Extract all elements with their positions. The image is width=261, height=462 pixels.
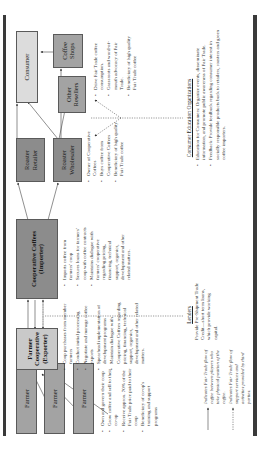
- importer-bullet: Maintains dialogue with farmers' coopera…: [89, 224, 132, 286]
- farmer-bullet: Receive approx. 70% of the Fair Trade pr…: [121, 368, 140, 432]
- importer-bullet: Imports coffee from farmers' coop: [62, 224, 74, 286]
- consumer-bullet: Drive Fair Trade coffee consumption.: [93, 30, 105, 96]
- farmer-bullet: Beneficiary of co-op's training and supp…: [140, 368, 159, 432]
- farmer-label: Farmer: [80, 389, 88, 408]
- farmer-box-2: Farmer: [44, 363, 65, 434]
- farmer-bullet: Grow coffee and sell to their co-op: [107, 368, 119, 432]
- lenders-text: Provide Pre-Shipment Trade Credit—short …: [194, 280, 219, 340]
- cooperative-coffees-box: Cooperative Coffees (Importer): [16, 219, 58, 299]
- consumer-education-heading: Consumer Education Organizations: [186, 68, 192, 168]
- roaster-bullet: Beneficiary of high quality Fair Trade c…: [113, 122, 125, 182]
- roaster-wholesaler-label: Roaster Wholesaler: [60, 140, 75, 180]
- farmer-label: Farmer: [51, 389, 59, 408]
- coop-bullet: Coop purchases from member farmers: [62, 302, 74, 370]
- coop-bullet: Conduct initial processing: [75, 302, 81, 370]
- farmer-label: Farmer: [23, 389, 31, 408]
- roaster-bullet: Owner of Cooperative Coffees: [86, 122, 98, 182]
- farmer-bullets: Own and govern their coop Grow coffee an…: [100, 368, 160, 432]
- coop-bullet: Maintain dialogue with Cooperative Coffe…: [109, 302, 146, 370]
- consumer-label: Consumer: [23, 54, 31, 81]
- fair-trade-coffee-flow-diagram: Farmer Farmer Farmer Farmer Cooperative …: [3, 15, 257, 436]
- lenders-heading: Lenders: [186, 290, 192, 340]
- farmer-cooperative-label: Farmer Cooperative (Exporter): [26, 330, 49, 368]
- coop-bullet: Negotiate and manage coffee exports: [83, 302, 95, 370]
- diagram-frame: Farmer Farmer Farmer Farmer Cooperative …: [3, 15, 257, 436]
- consumer-education-item: Feedback: Provide feedback regarding con…: [208, 26, 227, 166]
- farmer-box-3: Farmer: [73, 363, 94, 434]
- cooperative-coffees-label: Cooperative Coffees (Importer): [30, 221, 45, 297]
- consumer-bullet: Grassroots and word-of-mouth advocacy of…: [106, 30, 125, 96]
- farmer-box-1: Farmer: [16, 363, 37, 434]
- roaster-retailer-box: Roaster Retailer: [16, 138, 45, 182]
- importer-bullets: Imports coffee from farmers' coop Secure…: [62, 224, 133, 286]
- consumer-education-items: Education for Consumers: Organize events…: [195, 26, 228, 166]
- other-resellers-label: Other Resellers: [65, 78, 80, 111]
- roaster-wholesaler-box: Roaster Wholesaler: [53, 138, 82, 182]
- roaster-bullets: Owner of Cooperative Coffees Buys coffee…: [86, 122, 126, 182]
- consumer-education-item: Education for Consumers: Organize events…: [195, 26, 207, 166]
- coop-bullet: Spearhead implementation of development …: [96, 302, 108, 370]
- consumer-bullet: Beneficiary of high quality Fair Trade c…: [126, 30, 138, 96]
- importer-bullet: Secures loans for farmers' coop with cof…: [75, 224, 87, 286]
- roaster-bullet: Buys coffee from Cooperative Coffees: [99, 122, 111, 182]
- roaster-retailer-label: Roaster Retailer: [23, 140, 38, 180]
- farmer-cooperative-box: Farmer Cooperative (Exporter): [16, 328, 58, 370]
- consumer-bullets: Drive Fair Trade coffee consumption. Gra…: [93, 30, 139, 96]
- coffee-shops-box: Coffee Shops: [53, 34, 83, 68]
- coop-exporter-bullets: Coop purchases from member farmers Condu…: [62, 302, 148, 370]
- consumer-box: Consumer: [16, 31, 38, 103]
- farmer-bullet: Own and govern their coop: [100, 368, 106, 432]
- legend-dotted-text: Indicates Fair Trade flow of support ser…: [228, 346, 252, 404]
- legend-solid-text: Indicates Fair Trade flow of coffee betw…: [203, 346, 227, 404]
- other-resellers-box: Other Resellers: [58, 76, 86, 113]
- coffee-shops-label: Coffee Shops: [61, 36, 76, 66]
